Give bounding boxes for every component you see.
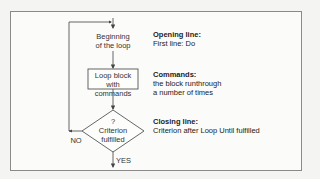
start-node-label: Beginning of the loop: [88, 32, 138, 50]
annotation-opening: Opening line: First line: Do: [153, 30, 201, 48]
annotation-commands-text2: a number of times: [153, 88, 213, 97]
annotation-closing: Closing line: Criterion after Loop Until…: [153, 117, 260, 135]
annotation-commands-text: the block runthrough: [153, 79, 221, 88]
start-node-line1: Beginning: [96, 32, 129, 41]
annotation-opening-text: First line: Do: [153, 39, 195, 48]
yes-edge-label: YES: [116, 156, 136, 165]
annotation-commands: Commands: the block runthrough a number …: [153, 70, 221, 97]
decision-question-mark: ?: [111, 117, 115, 126]
annotation-commands-heading: Commands:: [153, 70, 221, 79]
annotation-closing-text: Criterion after Loop Until fulfilled: [153, 126, 260, 135]
no-edge-label: NO: [66, 136, 86, 145]
process-node-line2: with commands: [95, 80, 132, 98]
process-node-line1: Loop block: [95, 71, 131, 80]
start-node-line2: of the loop: [95, 41, 130, 50]
annotation-opening-heading: Opening line:: [153, 30, 201, 39]
decision-line1: Criterion: [99, 126, 127, 135]
decision-line2: fulfilled: [101, 135, 124, 144]
annotation-closing-heading: Closing line:: [153, 117, 260, 126]
decision-node-label: ? Criterion fulfilled: [88, 117, 138, 144]
process-node-label: Loop block with commands: [88, 71, 138, 98]
